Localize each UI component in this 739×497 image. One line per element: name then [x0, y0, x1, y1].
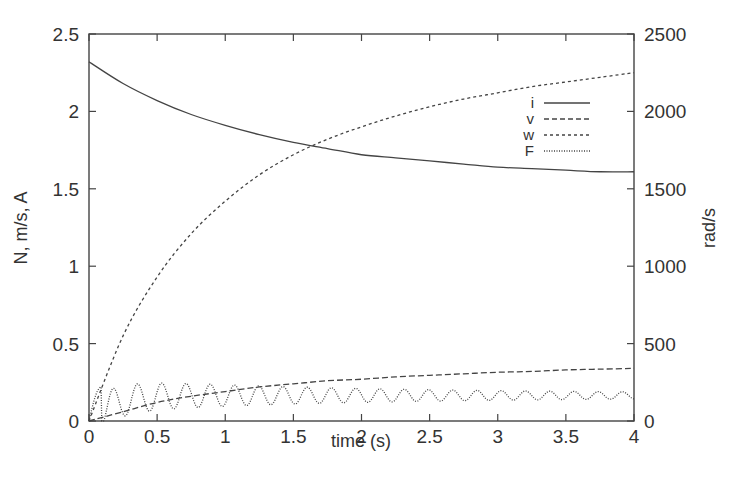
y-tick-label: 0	[68, 411, 79, 432]
x-tick-label: 0	[84, 426, 95, 447]
y2-tick-label: 500	[644, 334, 676, 355]
chart: 00.511.522.533.54 00.511.522.5 050010001…	[0, 0, 739, 497]
y-tick-label: 2.5	[53, 24, 79, 45]
y-axis-title: N, m/s, A	[11, 191, 31, 264]
legend: i v w F	[522, 94, 590, 159]
plot-frame	[89, 34, 634, 421]
x-axis-title: time (s)	[331, 431, 391, 451]
y-tick-label: 2	[68, 101, 79, 122]
legend-label-i: i	[531, 94, 534, 111]
x-axis-ticks: 00.511.522.533.54	[84, 34, 640, 447]
x-tick-label: 4	[629, 426, 640, 447]
plot-border	[89, 34, 634, 421]
y2-tick-label: 0	[644, 411, 655, 432]
y2-tick-label: 2500	[644, 24, 686, 45]
x-tick-label: 1	[220, 426, 231, 447]
legend-label-F: F	[525, 142, 534, 159]
x-tick-label: 1.5	[280, 426, 306, 447]
series-line-i	[89, 62, 634, 172]
x-tick-label: 3	[492, 426, 503, 447]
y2-axis-title: rad/s	[699, 208, 719, 248]
y-tick-label: 1	[68, 256, 79, 277]
x-tick-label: 3.5	[553, 426, 579, 447]
y2-axis-ticks: 05001000150020002500	[627, 24, 686, 432]
x-tick-label: 2.5	[416, 426, 442, 447]
y2-tick-label: 2000	[644, 101, 686, 122]
series-layer	[89, 62, 634, 421]
legend-label-w: w	[522, 126, 534, 143]
y-tick-label: 0.5	[53, 334, 79, 355]
y2-tick-label: 1500	[644, 179, 686, 200]
x-tick-label: 0.5	[144, 426, 170, 447]
y2-tick-label: 1000	[644, 256, 686, 277]
legend-label-v: v	[527, 110, 535, 127]
series-line-w	[89, 73, 634, 421]
y-tick-label: 1.5	[53, 179, 79, 200]
